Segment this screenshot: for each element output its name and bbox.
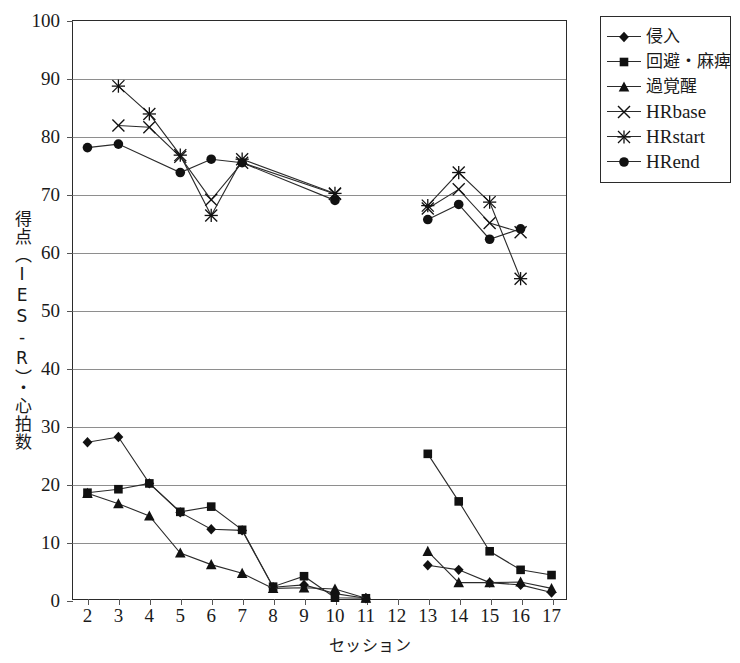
legend-label-侵入: 侵入 (646, 28, 680, 45)
y-tick-label-60: 60 (14, 243, 60, 262)
data-point-HRbase-x14 (453, 183, 465, 195)
data-point-HRend-x16 (516, 224, 526, 234)
x-tick-label-14: 14 (444, 606, 474, 625)
y-tick-label-100: 100 (14, 11, 60, 30)
legend-marker-glyph (614, 152, 634, 172)
data-point-回避・麻痺-x14 (454, 497, 463, 506)
series-1 (83, 432, 557, 604)
legend-marker-glyph (614, 77, 634, 97)
legend-item-HRend[interactable]: HRend (607, 149, 724, 174)
y-tick-label-10: 10 (14, 533, 60, 552)
data-point-回避・麻痺-x16 (516, 566, 525, 575)
data-point-HRstart-x3 (112, 80, 125, 93)
legend-item-回避・麻痺[interactable]: 回避・麻痺 (607, 49, 724, 74)
data-point-侵入-x3 (114, 432, 124, 442)
y-tick-label-90: 90 (14, 69, 60, 88)
data-point-HRbase-x6 (205, 194, 217, 206)
legend-marker-diamond (619, 31, 629, 41)
series-2 (83, 450, 556, 603)
data-point-回避・麻痺-x13 (423, 450, 432, 459)
x-tick-label-16: 16 (506, 606, 536, 625)
legend-marker-glyph (614, 102, 634, 122)
y-tick-label-70: 70 (14, 185, 60, 204)
legend-item-HRstart[interactable]: HRstart (607, 124, 724, 149)
x-tick-label-12: 12 (382, 606, 412, 625)
series-4 (112, 120, 526, 239)
data-point-回避・麻痺-x4 (145, 479, 154, 488)
data-point-HRstart-x4 (143, 107, 156, 120)
data-point-回避・麻痺-x17 (547, 571, 556, 580)
chart-legend: 侵入回避・麻痺過覚醒HRbaseHRstartHRend (600, 16, 731, 183)
x-tick-label-9: 9 (289, 606, 319, 625)
x-tick-label-10: 10 (320, 606, 350, 625)
data-point-HRend-x15 (485, 234, 495, 244)
y-tick-mark-0 (67, 601, 73, 602)
legend-item-過覚醒[interactable]: 過覚醒 (607, 74, 724, 99)
x-tick-label-11: 11 (351, 606, 381, 625)
y-tick-label-20: 20 (14, 475, 60, 494)
data-point-回避・麻痺-x5 (176, 508, 185, 517)
legend-item-HRbase[interactable]: HRbase (607, 99, 724, 124)
data-point-過覚醒-x7 (237, 568, 248, 578)
data-point-HRend-x7 (237, 158, 247, 168)
data-point-HRend-x13 (423, 215, 433, 225)
x-tick-label-6: 6 (196, 606, 226, 625)
data-point-侵入-x13 (423, 560, 433, 570)
legend-item-侵入[interactable]: 侵入 (607, 24, 724, 49)
data-point-回避・麻痺-x15 (485, 547, 494, 556)
x-axis-title: セッション (0, 632, 740, 656)
x-tick-label-13: 13 (413, 606, 443, 625)
legend-label-HRend: HRend (646, 153, 700, 170)
y-tick-label-0: 0 (14, 591, 60, 610)
data-point-回避・麻痺-x6 (207, 502, 216, 511)
data-point-HRbase-x15 (484, 217, 496, 229)
data-point-HRstart-x16 (514, 272, 527, 285)
data-point-侵入-x14 (454, 565, 464, 575)
y-tick-label-30: 30 (14, 417, 60, 436)
data-point-過覚醒-x13 (422, 546, 433, 556)
x-tick-label-8: 8 (258, 606, 288, 625)
data-point-HRend-x3 (114, 139, 124, 149)
x-tick-label-17: 17 (537, 606, 567, 625)
y-tick-label-40: 40 (14, 359, 60, 378)
legend-marker-asterisk-icon (607, 129, 641, 145)
legend-label-HRstart: HRstart (646, 128, 705, 145)
data-point-HRstart-x13 (421, 199, 434, 212)
data-point-HRstart-x6 (205, 209, 218, 222)
data-point-回避・麻痺-x10 (331, 593, 340, 602)
data-point-侵入-x2 (83, 437, 93, 447)
legend-marker-glyph (614, 127, 634, 147)
legend-label-HRbase: HRbase (646, 103, 706, 120)
legend-marker-asterisk (617, 130, 630, 143)
legend-marker-glyph (614, 52, 634, 72)
data-point-HRstart-x14 (452, 166, 465, 179)
legend-marker-x-icon (607, 104, 641, 120)
x-tick-label-15: 15 (475, 606, 505, 625)
data-point-過覚醒-x4 (144, 510, 155, 520)
series-5 (112, 80, 527, 286)
legend-label-回避・麻痺: 回避・麻痺 (646, 53, 731, 70)
legend-marker-square (620, 57, 629, 66)
legend-marker-square-icon (607, 54, 641, 70)
data-point-回避・麻痺-x7 (238, 526, 247, 535)
chart-series-canvas (72, 20, 567, 600)
data-point-HRend-x6 (206, 154, 216, 164)
data-point-HRend-x10 (330, 196, 340, 206)
data-point-HRend-x14 (454, 200, 464, 210)
legend-label-過覚醒: 過覚醒 (646, 78, 697, 95)
x-tick-label-3: 3 (103, 606, 133, 625)
data-point-HRend-x2 (83, 143, 93, 153)
data-point-HRstart-x15 (483, 196, 496, 209)
data-point-過覚醒-x3 (113, 498, 124, 508)
legend-marker-glyph (614, 27, 634, 47)
data-point-回避・麻痺-x3 (114, 485, 123, 494)
y-tick-label-50: 50 (14, 301, 60, 320)
data-point-侵入-x6 (206, 524, 216, 534)
legend-marker-triangle (619, 81, 630, 91)
x-tick-label-4: 4 (134, 606, 164, 625)
legend-marker-circle (619, 157, 629, 167)
data-point-回避・麻痺-x9 (300, 572, 309, 581)
legend-marker-x (618, 106, 630, 118)
x-tick-label-5: 5 (165, 606, 195, 625)
legend-marker-circle-icon (607, 154, 641, 170)
